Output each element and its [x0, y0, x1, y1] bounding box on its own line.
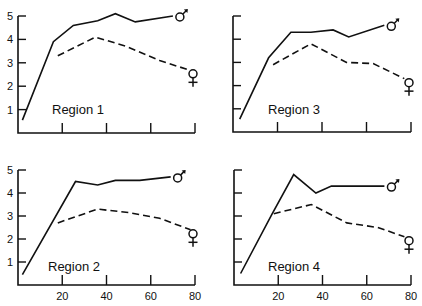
- male-symbol-icon: [387, 18, 399, 30]
- x-tick-label: 40: [316, 290, 328, 302]
- region-label: Region 2: [48, 259, 100, 274]
- x-tick-label: 60: [361, 290, 373, 302]
- panel-region-1: 12345Region 1: [7, 9, 198, 133]
- panel-region-2: 1234520406080Region 2: [7, 164, 201, 302]
- region-line-charts: 12345Region 1Region 31234520406080Region…: [0, 0, 422, 306]
- y-tick-label: 3: [7, 57, 13, 69]
- female-symbol-icon: [405, 237, 414, 254]
- y-tick-label: 5: [7, 10, 13, 22]
- x-tick-label: 60: [145, 290, 157, 302]
- x-tick-label: 40: [100, 290, 112, 302]
- figure: 12345Region 1Region 31234520406080Region…: [0, 0, 422, 306]
- axes: [233, 16, 411, 132]
- female-line: [58, 209, 191, 230]
- female-symbol-icon: [189, 70, 198, 87]
- y-tick-label: 1: [7, 256, 13, 268]
- male-symbol-icon: [174, 170, 186, 182]
- y-tick-label: 5: [7, 164, 13, 176]
- region-label: Region 3: [268, 102, 320, 117]
- male-symbol-icon: [176, 9, 188, 21]
- female-symbol-icon: [189, 230, 198, 247]
- male-symbol-icon: [387, 179, 399, 191]
- female-line: [273, 44, 404, 79]
- panel-region-4: 20406080Region 4: [234, 170, 417, 302]
- female-symbol-icon: [405, 79, 414, 96]
- x-tick-label: 80: [189, 290, 201, 302]
- x-tick-label: 20: [56, 290, 68, 302]
- axes: [18, 16, 195, 133]
- axes: [234, 170, 411, 285]
- y-tick-label: 1: [7, 104, 13, 116]
- y-tick-label: 2: [7, 80, 13, 92]
- region-label: Region 1: [52, 102, 104, 117]
- y-tick-label: 4: [7, 33, 13, 45]
- region-label: Region 4: [268, 259, 320, 274]
- x-tick-label: 80: [405, 290, 417, 302]
- panel-region-3: Region 3: [233, 16, 414, 132]
- y-tick-label: 3: [7, 210, 13, 222]
- y-tick-label: 2: [7, 233, 13, 245]
- female-line: [274, 205, 405, 237]
- x-tick-label: 20: [272, 290, 284, 302]
- y-tick-label: 4: [7, 187, 13, 199]
- axes: [18, 170, 195, 285]
- female-line: [58, 37, 189, 70]
